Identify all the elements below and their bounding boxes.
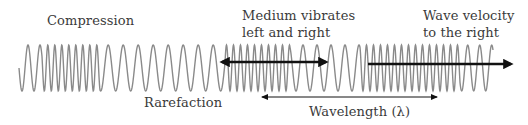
longitudinal-wave (19, 45, 493, 91)
wave-velocity-label-line2: to the right (423, 25, 499, 41)
wavelength-label: Wavelength (λ) (309, 104, 410, 120)
longitudinal-wave-diagram: Compression Rarefaction Medium vibrates … (0, 0, 528, 125)
wave-velocity-label-line1: Wave velocity (423, 8, 514, 24)
compression-label: Compression (47, 13, 134, 29)
rarefaction-label: Rarefaction (144, 95, 222, 111)
medium-vibrates-label-line1: Medium vibrates (242, 8, 355, 24)
medium-vibrates-label-line2: left and right (242, 25, 330, 41)
